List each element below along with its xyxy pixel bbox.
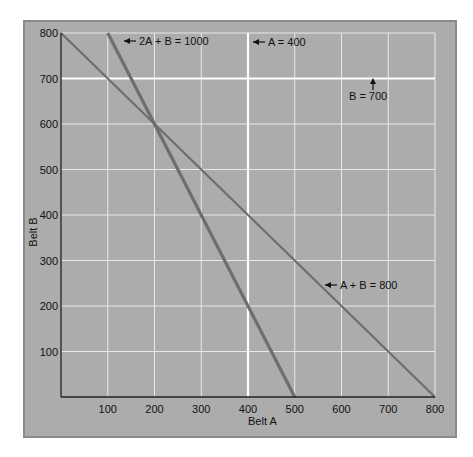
annotation-label: B = 700 xyxy=(349,90,387,102)
x-tick-label: 500 xyxy=(286,403,304,415)
x-axis-label: Belt A xyxy=(248,415,277,427)
y-tick-label: 300 xyxy=(40,255,58,267)
tick-labels: 1002003004005006007008001002003004005006… xyxy=(40,27,445,415)
x-tick-label: 100 xyxy=(99,403,117,415)
y-tick-label: 800 xyxy=(40,27,58,39)
y-tick-label: 100 xyxy=(40,346,58,358)
x-tick-label: 400 xyxy=(239,403,257,415)
annotation: A + B = 800 xyxy=(325,279,398,291)
annotation: B = 700 xyxy=(349,78,387,102)
y-tick-label: 600 xyxy=(40,118,58,130)
y-axis-label: Belt B xyxy=(27,217,39,246)
chart: 1002003004005006007008001002003004005006… xyxy=(0,0,473,457)
arrowhead-icon xyxy=(124,38,130,44)
x-tick-label: 200 xyxy=(145,403,163,415)
arrowhead-icon xyxy=(253,39,259,45)
y-tick-label: 400 xyxy=(40,209,58,221)
y-tick-label: 700 xyxy=(40,73,58,85)
x-tick-label: 600 xyxy=(332,403,350,415)
annotation-label: 2A + B = 1000 xyxy=(139,35,209,47)
annotation: A = 400 xyxy=(253,36,306,48)
x-tick-label: 300 xyxy=(192,403,210,415)
y-tick-label: 200 xyxy=(40,300,58,312)
y-tick-label: 500 xyxy=(40,164,58,176)
annotation: 2A + B = 1000 xyxy=(124,35,209,47)
annotation-label: A = 400 xyxy=(268,36,306,48)
x-tick-label: 800 xyxy=(426,403,444,415)
arrowhead-icon xyxy=(325,282,331,288)
annotations: 2A + B = 1000A = 400B = 700A + B = 800 xyxy=(124,35,398,291)
x-tick-label: 700 xyxy=(379,403,397,415)
annotation-label: A + B = 800 xyxy=(340,279,398,291)
